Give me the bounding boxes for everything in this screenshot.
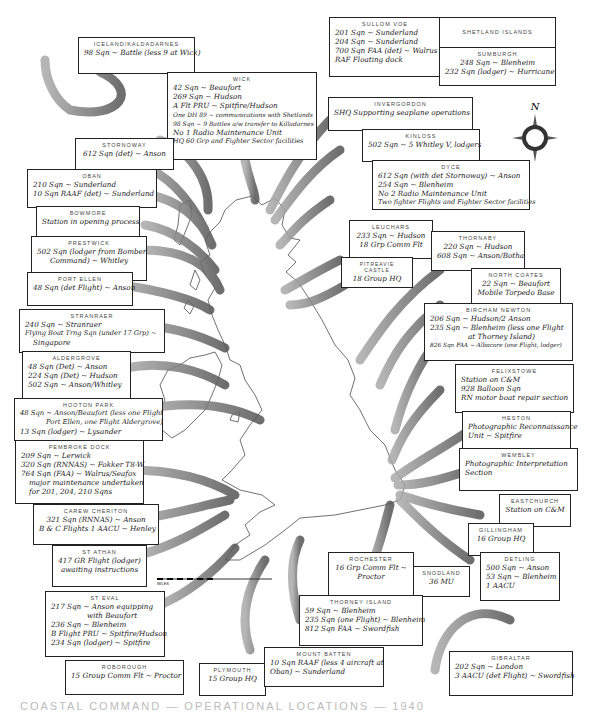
- station-line: 320 Sqn (RNNAS) ~ Fokker T8-W: [21, 460, 138, 469]
- station-oban[interactable]: OBAN 210 Sqn ~ Sunderland 10 Sqn RAAF (d…: [27, 169, 157, 208]
- station-line: One DH 89 ~ communications with Shetland…: [173, 110, 311, 119]
- station-line: 15 Group HQ: [205, 674, 260, 683]
- station-line: Photographic Reconnaissance: [468, 422, 565, 431]
- station-pitreavie-castle[interactable]: PITREAVIE CASTLE 18 Group HQ: [341, 257, 413, 288]
- station-line: 36 MU: [419, 577, 464, 586]
- station-line: 10 Sqn RAAF (det) ~ Sunderland: [33, 189, 151, 198]
- station-leuchars[interactable]: LEUCHARS 233 Sqn ~ Hudson 18 Grp Comm Fl…: [349, 220, 433, 259]
- station-line: 700 Sqn FAA (det) ~ Walrus: [335, 46, 435, 55]
- station-carew-cheriton[interactable]: CAREW CHERITON 321 Sqn (RNNAS) ~ Anson B…: [33, 504, 159, 545]
- station-line: 269 Sqn ~ Hudson: [173, 92, 311, 101]
- station-plymouth[interactable]: PLYMOUTH 15 Group HQ: [199, 663, 266, 696]
- station-mount-batten[interactable]: MOUNT BATTEN 10 Sqn RAAF (less 4 aircraf…: [264, 647, 384, 687]
- station-line: Photographic Interpretation: [465, 459, 572, 468]
- station-line: RN motor boat repair section: [461, 393, 568, 402]
- station-rochester[interactable]: ROCHESTER 16 Grp Comm Flt ~ Proctor: [328, 552, 414, 596]
- station-line: 48 Sqn ~ Anson/Beaufort (less one Flight: [20, 409, 157, 418]
- station-line: 236 Sqn ~ Blenheim: [51, 620, 159, 629]
- station-wembley[interactable]: WEMBLEY Photographic Interpretation Sect…: [459, 448, 578, 491]
- station-line: RAF Floating dock: [335, 55, 435, 64]
- station-line: A Flt PRU ~ Spitfire/Hudson: [173, 101, 311, 110]
- station-line: Station on C&M: [505, 505, 565, 514]
- station-st-athan[interactable]: ST ATHAN 417 GR Flight (lodger) awaiting…: [52, 545, 147, 587]
- station-title: DETLING: [486, 556, 554, 562]
- station-line: 15 Group Comm Flt ~ Proctor: [71, 671, 178, 680]
- station-title: STRANRAER: [25, 313, 159, 319]
- station-line: 48 Sqn (det Flight) ~ Anson: [33, 283, 127, 292]
- station-hooton-park[interactable]: HOOTON PARK 48 Sqn ~ Anson/Beaufort (les…: [14, 398, 163, 441]
- station-line: Singapore: [25, 338, 159, 347]
- station-line: 201 Sqn ~ Sunderland: [335, 28, 435, 37]
- station-line: Station in opening process: [42, 217, 134, 226]
- station-line: at Thorney Island): [430, 332, 567, 341]
- station-iceland[interactable]: ICELAND/KALDADARNES 98 Sqn ~ Battle (les…: [78, 37, 195, 74]
- station-line: SHQ Supporting seaplane operations: [334, 108, 467, 117]
- station-title: ROCHESTER: [334, 556, 408, 562]
- station-port-ellen[interactable]: PORT ELLEN 48 Sqn (det Flight) ~ Anson: [27, 272, 133, 306]
- station-title: PEMBROKE DOCK: [21, 444, 138, 450]
- station-line: Proctor: [334, 572, 408, 581]
- station-st-eval[interactable]: ST EVAL 217 Sqn ~ Anson equipping with B…: [45, 591, 165, 657]
- station-line: with Beaufort: [51, 611, 159, 620]
- station-stranraer[interactable]: STRANRAER 240 Sqn ~ Stranraer Flying Boa…: [19, 309, 165, 353]
- station-line: Unit ~ Spitfire: [468, 431, 565, 440]
- station-title: SULLOM VOE: [335, 21, 435, 27]
- station-shetland-islands[interactable]: SHETLAND ISLANDS: [439, 17, 556, 49]
- station-line: Oban) ~ Sunderland: [270, 667, 378, 676]
- station-line: 612 Sqn (with det Stornoway) ~ Anson: [378, 171, 524, 180]
- station-line: 210 Sqn ~ Sunderland: [33, 180, 151, 189]
- station-line: 10 Sqn RAAF (less 4 aircraft at: [270, 658, 378, 667]
- station-title: SHETLAND ISLANDS: [445, 29, 550, 35]
- station-line: 240 Sqn ~ Stranraer: [25, 320, 159, 329]
- station-north-coates[interactable]: NORTH COATES 22 Sqn ~ Beaufort Mobile To…: [471, 268, 561, 305]
- station-title: NORTH COATES: [477, 272, 555, 278]
- station-thorney-island[interactable]: THORNEY ISLAND 59 Sqn ~ Blenheim 235 Sqn…: [299, 595, 423, 646]
- station-title: GIBRALTAR: [455, 655, 567, 661]
- station-line: 502 Sqn ~ Anson/Whitley: [28, 380, 125, 389]
- station-heston[interactable]: HESTON Photographic Reconnaissance Unit …: [462, 411, 571, 450]
- station-line: 928 Balloon Sqn: [461, 384, 568, 393]
- station-line: 224 Sqn (Det) ~ Hudson: [28, 371, 125, 380]
- station-invergordon[interactable]: INVERGORDON SHQ Supporting seaplane oper…: [328, 97, 473, 131]
- station-aldergrove[interactable]: ALDERGROVE 48 Sqn (Det) ~ Anson 224 Sqn …: [22, 351, 131, 399]
- station-line: 53 Sqn ~ Blenheim: [486, 572, 554, 581]
- station-line: Flying Boat Trng Sqn (under 17 Grp) ~: [25, 329, 159, 338]
- station-kinloss[interactable]: KINLOSS 502 Sqn ~ 5 Whitley V, lodgers: [362, 129, 480, 162]
- station-line: 235 Sqn (one Flight) ~ Blenheim: [305, 615, 417, 624]
- station-title: OBAN: [33, 173, 151, 179]
- station-line: 417 GR Flight (lodger): [58, 556, 141, 565]
- station-title: ST ATHAN: [58, 549, 141, 555]
- station-title: WEMBLEY: [465, 452, 572, 458]
- station-line: Two fighter Flights and Fighter Sector f…: [378, 198, 524, 207]
- station-line: major maintenance undertaken: [21, 478, 138, 487]
- station-line: 42 Sqn ~ Beaufort: [173, 83, 311, 92]
- station-sumburgh[interactable]: SUMBURGH 248 Sqn ~ Blenheim 232 Sqn (lod…: [439, 47, 556, 86]
- station-title: PORT ELLEN: [33, 276, 127, 282]
- station-detling[interactable]: DETLING 500 Sqn ~ Anson 53 Sqn ~ Blenhei…: [480, 552, 560, 601]
- station-pembroke-dock[interactable]: PEMBROKE DOCK 209 Sqn ~ Lerwick 320 Sqn …: [15, 440, 144, 504]
- station-bowmore[interactable]: BOWMORE Station in opening process: [36, 206, 140, 239]
- station-line: Command) ~ Whitley: [37, 256, 141, 265]
- station-gibraltar[interactable]: GIBRALTAR 202 Sqn ~ London 3 AACU (det F…: [449, 651, 573, 696]
- station-title: STORNOWAY: [81, 142, 168, 148]
- station-dyce[interactable]: DYCE 612 Sqn (with det Stornoway) ~ Anso…: [372, 160, 530, 210]
- station-bircham-newton[interactable]: BIRCHAM NEWTON 206 Sqn ~ Hudson/2 Anson …: [424, 303, 573, 361]
- station-sullom-voe[interactable]: SULLOM VOE 201 Sqn ~ Sunderland 204 Sqn …: [329, 17, 441, 77]
- station-line: 502 Sqn ~ 5 Whitley V, lodgers: [368, 140, 474, 149]
- scale-unit: MILES: [157, 581, 169, 586]
- station-felixstowe[interactable]: FELIXSTOWE Station on C&M 928 Balloon Sq…: [455, 364, 574, 413]
- station-title: ICELAND/KALDADARNES: [84, 41, 189, 47]
- station-line: B Flight PRU ~ Spitfire/Hudson: [51, 629, 159, 638]
- station-line: 233 Sqn ~ Hudson: [355, 231, 427, 240]
- station-thornaby[interactable]: THORNABY 220 Sqn ~ Hudson 608 Sqn ~ Anso…: [431, 231, 525, 271]
- station-roborough[interactable]: ROBOROUGH 15 Group Comm Flt ~ Proctor: [65, 660, 184, 695]
- station-line: 232 Sqn (lodger) ~ Hurricane: [445, 67, 550, 76]
- station-wick[interactable]: WICK 42 Sqn ~ Beaufort 269 Sqn ~ Hudson …: [167, 72, 317, 160]
- station-line: Port Ellen, one Flight Aldergrove): [20, 418, 157, 427]
- station-line: 59 Sqn ~ Blenheim: [305, 606, 417, 615]
- station-stornoway[interactable]: STORNOWAY 612 Sqn (det) ~ Anson: [75, 138, 174, 170]
- station-line: 254 Sqn ~ Blenheim: [378, 180, 524, 189]
- station-title: GILLINGHAM: [474, 527, 528, 533]
- station-snodland[interactable]: SNODLAND 36 MU: [413, 566, 470, 597]
- station-line: 321 Sqn (RNNAS) ~ Anson: [39, 515, 153, 524]
